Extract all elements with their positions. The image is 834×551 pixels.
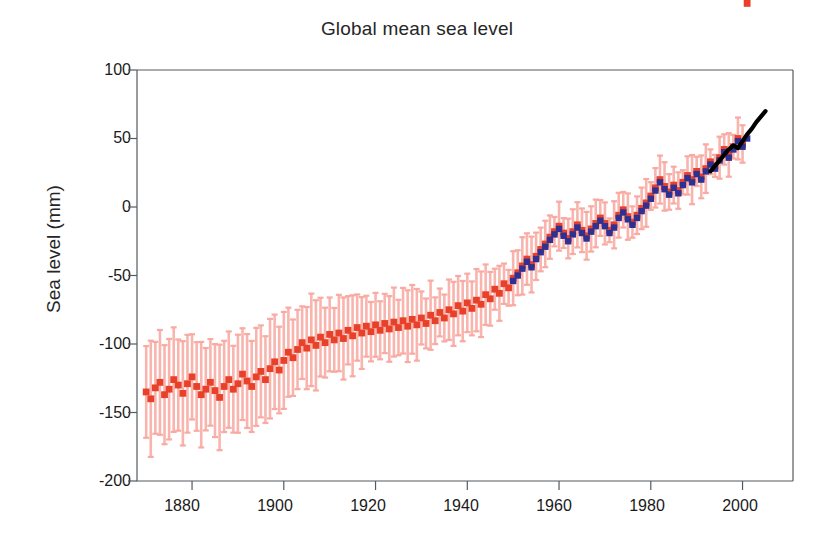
- data-point-red: [413, 321, 420, 328]
- data-point-red: [450, 310, 457, 317]
- data-point-red: [271, 358, 278, 365]
- data-point-red: [175, 382, 182, 389]
- data-point-red: [744, 0, 751, 7]
- data-point-red: [221, 383, 228, 390]
- data-point-red: [276, 367, 283, 374]
- data-point-blue: [542, 244, 548, 250]
- data-point-blue: [528, 264, 534, 270]
- data-point-blue: [583, 235, 589, 241]
- axis-frame: [137, 70, 793, 481]
- data-point-red: [487, 295, 494, 302]
- data-point-red: [166, 386, 173, 393]
- data-point-red: [358, 330, 365, 337]
- data-point-blue: [643, 202, 649, 208]
- data-point-red: [478, 301, 485, 308]
- data-point-red: [404, 323, 411, 330]
- data-point-red: [395, 324, 402, 331]
- data-point-red: [184, 380, 191, 387]
- data-point-red: [235, 380, 242, 387]
- data-point-red: [340, 335, 347, 342]
- data-point-blue: [533, 256, 539, 262]
- data-point-blue: [638, 208, 644, 214]
- data-point-red: [468, 305, 475, 312]
- data-point-red: [290, 354, 297, 361]
- data-point-blue: [629, 222, 635, 228]
- data-point-red: [157, 379, 164, 386]
- data-point-blue: [579, 230, 585, 236]
- data-point-red: [303, 345, 310, 352]
- data-point-blue: [515, 272, 521, 278]
- data-point-blue: [671, 185, 677, 191]
- data-point-blue: [611, 224, 617, 230]
- data-point-red: [202, 386, 209, 393]
- data-point-blue: [661, 186, 667, 192]
- figure-container: Global mean sea level Sea level (mm) 100…: [0, 0, 834, 551]
- data-point-blue: [510, 278, 516, 284]
- data-point-red: [313, 342, 320, 349]
- data-point-blue: [726, 154, 732, 160]
- data-point-red: [386, 326, 393, 333]
- data-point-red: [212, 387, 219, 394]
- data-point-blue: [648, 196, 654, 202]
- data-point-blue: [597, 218, 603, 224]
- data-point-blue: [620, 209, 626, 215]
- data-point-red: [239, 371, 246, 378]
- data-point-red: [322, 339, 329, 346]
- data-point-blue: [615, 215, 621, 221]
- data-point-red: [349, 332, 356, 339]
- data-point-blue: [602, 223, 608, 229]
- data-point-red: [377, 327, 384, 334]
- data-point-red: [505, 284, 512, 291]
- data-point-red: [267, 365, 274, 372]
- data-point-blue: [689, 179, 695, 185]
- data-point-blue: [698, 176, 704, 182]
- data-point-blue: [570, 231, 576, 237]
- data-point-blue: [680, 182, 686, 188]
- data-point-red: [143, 389, 150, 396]
- data-point-red: [248, 383, 255, 390]
- data-point-blue: [519, 265, 525, 271]
- data-point-blue: [675, 190, 681, 196]
- data-point-blue: [703, 168, 709, 174]
- data-point-blue: [657, 179, 663, 185]
- data-point-red: [368, 328, 375, 335]
- data-point-red: [331, 336, 338, 343]
- data-point-blue: [547, 237, 553, 243]
- data-point-blue: [560, 233, 566, 239]
- data-point-red: [496, 290, 503, 297]
- data-point-red: [225, 376, 232, 383]
- data-point-blue: [606, 230, 612, 236]
- data-point-red: [280, 357, 287, 364]
- data-point-red: [294, 346, 301, 353]
- data-point-blue: [556, 226, 562, 232]
- data-point-blue: [634, 215, 640, 221]
- data-point-blue: [593, 223, 599, 229]
- data-point-blue: [588, 228, 594, 234]
- data-point-blue: [537, 249, 543, 255]
- data-point-blue: [551, 231, 557, 237]
- data-point-red: [257, 368, 264, 375]
- data-point-red: [423, 320, 430, 327]
- data-point-blue: [565, 238, 571, 244]
- data-point-red: [441, 315, 448, 322]
- data-point-blue: [625, 216, 631, 222]
- data-point-blue: [574, 224, 580, 230]
- data-point-red: [207, 379, 214, 386]
- data-point-red: [179, 390, 186, 397]
- data-point-red: [432, 317, 439, 324]
- data-point-red: [262, 376, 269, 383]
- data-point-blue: [693, 171, 699, 177]
- data-point-blue: [652, 187, 658, 193]
- data-point-blue: [666, 191, 672, 197]
- data-point-red: [147, 395, 154, 402]
- data-point-blue: [524, 259, 530, 265]
- data-point-red: [189, 373, 196, 380]
- plot-area: [0, 0, 834, 551]
- data-point-red: [216, 394, 223, 401]
- data-point-red: [459, 308, 466, 315]
- data-point-red: [193, 383, 200, 390]
